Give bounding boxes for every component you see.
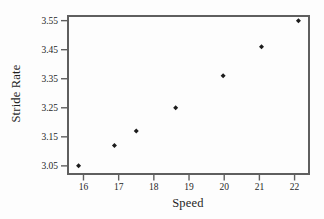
- data-point: [112, 143, 117, 148]
- data-point: [76, 163, 81, 168]
- y-tick-label: 3.25: [41, 103, 58, 113]
- data-point: [296, 18, 301, 23]
- x-tick-label: 16: [79, 182, 89, 192]
- data-point: [173, 105, 178, 110]
- data-point: [134, 129, 139, 134]
- y-tick-label: 3.45: [41, 45, 58, 55]
- x-tick-label: 20: [219, 182, 229, 192]
- x-tick-label: 17: [114, 182, 124, 192]
- x-tick-label: 21: [255, 182, 265, 192]
- y-tick-label: 3.15: [41, 132, 58, 142]
- scatter-plot-figure: 161718192021223.053.153.253.353.453.55 S…: [0, 0, 324, 219]
- y-tick-label: 3.55: [41, 16, 58, 26]
- x-tick-label: 22: [290, 182, 300, 192]
- x-tick-label: 18: [149, 182, 159, 192]
- data-point: [221, 73, 226, 78]
- data-point: [259, 44, 264, 49]
- chart-canvas: 161718192021223.053.153.253.353.453.55: [0, 0, 324, 219]
- y-tick-label: 3.05: [41, 161, 58, 171]
- x-tick-label: 19: [184, 182, 194, 192]
- y-tick-label: 3.35: [41, 74, 58, 84]
- plot-frame: [68, 16, 309, 174]
